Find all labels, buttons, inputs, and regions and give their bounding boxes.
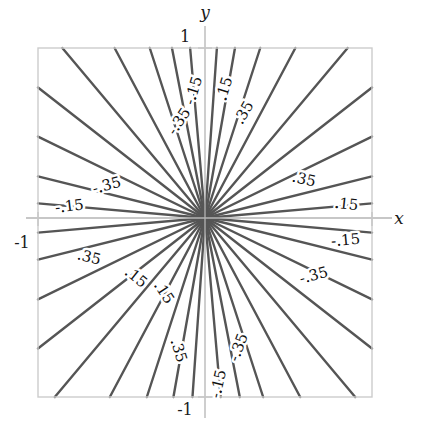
contour-level-label: -.15 [180,74,206,107]
contour-ray [205,48,217,218]
contour-ray [205,48,295,218]
y-tick-label-minus-1: -1 [177,400,193,419]
contour-ray [205,48,260,218]
contour-level-label: .35 [290,168,317,191]
contour-ray [173,218,205,397]
y-axis-label: y [199,2,210,22]
x-axis-label: x [394,208,404,228]
contour-level-label: .35 [75,246,103,269]
contour-ray [147,218,205,397]
contour-ray [38,218,205,348]
plot-canvas: -.15-.15.15.15-.35-.35.35.35-.35-.35-.15… [0,0,421,432]
contour-level-label: -.35 [90,173,123,198]
x-tick-label-minus-1: -1 [14,233,30,252]
y-tick-label-plus-1: 1 [180,27,190,46]
contour-ray [192,218,205,397]
contour-ray [205,48,235,218]
contour-level-label: -.15 [54,195,85,216]
contour-level-label: .35 [167,336,191,364]
contour-level-label: -.15 [206,368,230,400]
contour-level-label: -.35 [163,104,194,138]
contour-ray [55,218,205,397]
contour-ray [205,48,348,218]
contour-level-label: .35 [230,98,258,128]
contour-ray [110,218,205,397]
contour-level-label: .15 [334,194,360,214]
contour-level-label: -.15 [330,230,360,250]
contour-level-label: .15 [150,277,178,307]
contour-ray [62,48,205,218]
contour-plot-figure: -.15-.15.15.15-.35-.35.35.35-.35-.35-.15… [0,0,421,432]
